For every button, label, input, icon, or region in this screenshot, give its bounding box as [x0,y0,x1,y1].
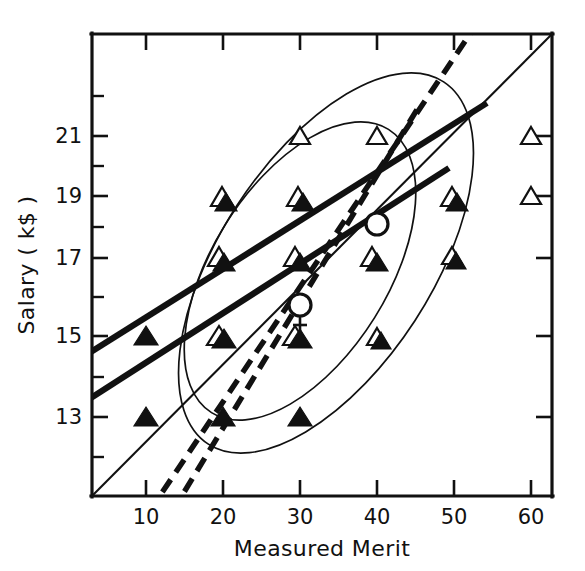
group-mean-circle-lower [289,294,311,316]
x-tick-label: 20 [210,505,237,529]
y-tick-label: 13 [55,405,82,429]
figure-background [0,0,585,571]
y-tick-label: 21 [55,124,82,148]
x-tick-label: 60 [518,505,545,529]
y-tick-label: 19 [55,184,82,208]
y-tick-label: 15 [55,324,82,348]
x-tick-label: 40 [364,505,391,529]
group-mean-circle-upper [366,213,388,235]
x-tick-label: 50 [441,505,468,529]
x-tick-label: 30 [287,505,314,529]
y-tick-label: 17 [55,246,82,270]
x-tick-label: 10 [133,505,160,529]
y-axis-title: Salary ( k$ ) [14,195,39,334]
x-axis-title: Measured Merit [234,536,410,561]
salary-merit-scatter-plot: 13 15 17 19 21 10 20 30 40 50 60 Measure… [0,0,585,571]
